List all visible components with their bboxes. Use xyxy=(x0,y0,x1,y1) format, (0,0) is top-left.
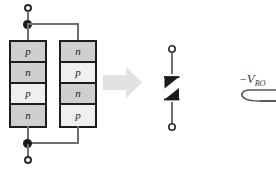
layer-cell: n xyxy=(11,105,45,126)
equivalence-arrow xyxy=(103,66,143,103)
layer-cell: n xyxy=(11,63,45,84)
layer-cell: p xyxy=(11,84,45,105)
top-crossover-wire xyxy=(27,23,79,25)
vbo-minus-sign: − xyxy=(240,72,247,86)
left-stack-top-lead xyxy=(27,23,29,41)
right-stack-top-lead xyxy=(77,23,79,41)
symbol-bottom-terminal xyxy=(169,124,175,130)
symbol-top-terminal xyxy=(169,46,175,52)
layer-cell: n xyxy=(61,84,95,105)
bottom-terminal xyxy=(24,156,32,164)
bottom-crossover-wire xyxy=(27,142,79,144)
figure-canvas: p n p n n p n p xyxy=(0,0,276,175)
layer-cell: p xyxy=(61,105,95,126)
npnp-stack: n p n p xyxy=(59,40,97,128)
diac-symbol xyxy=(160,44,184,136)
pnpn-stack: p n p n xyxy=(9,40,47,128)
layer-cell: p xyxy=(61,63,95,84)
iv-curve-fragment xyxy=(236,86,276,116)
vbo-voltage-symbol: V xyxy=(247,71,255,86)
layer-cell: n xyxy=(61,42,95,63)
layer-cell: p xyxy=(11,42,45,63)
